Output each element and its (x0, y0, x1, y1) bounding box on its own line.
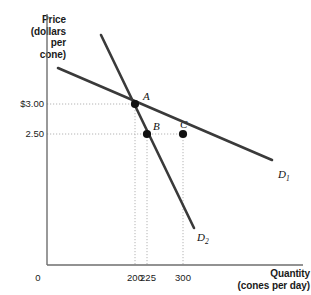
data-point-b (143, 130, 151, 138)
demand-curve-chart: Price (dollars per cone) Quantity (cones… (0, 0, 311, 295)
chart-plot-area (0, 0, 311, 295)
data-point-a (131, 100, 139, 108)
data-point-c (179, 130, 187, 138)
demand-curve-d1 (58, 68, 272, 160)
